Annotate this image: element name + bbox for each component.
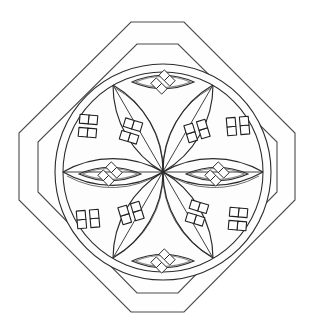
drawing-canvas [0,0,315,334]
mandala-illustration [0,0,315,334]
rosette-group [55,64,271,280]
